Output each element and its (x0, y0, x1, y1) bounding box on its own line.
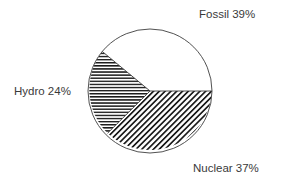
pie-label-nuclear: Nuclear 37% (193, 162, 259, 174)
pie-chart-container: Fossil 39% Hydro 24% Nuclear 37% (0, 0, 290, 181)
pie-label-fossil: Fossil 39% (199, 8, 255, 20)
pie-label-hydro: Hydro 24% (14, 85, 71, 97)
pie-chart-svg: Fossil 39% Hydro 24% Nuclear 37% (0, 0, 290, 181)
